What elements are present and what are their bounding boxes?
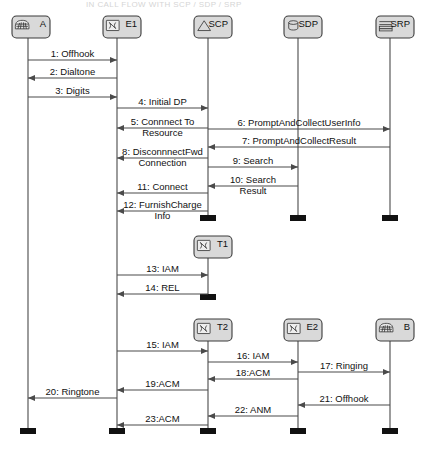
message-label: 16: IAM [237,350,270,361]
message-arrowhead [298,402,305,408]
switch-icon-wrap [197,240,210,250]
lifeline-header-t2[interactable]: T2 [194,319,232,341]
message-17[interactable]: 17: Ringing [298,360,390,375]
message-label: 14: REL [145,282,179,293]
message-arrowhead [28,395,35,401]
lifeline-header-scp[interactable]: SCP [194,16,232,38]
message-arrowhead [110,94,117,100]
message-10[interactable]: 10: SearchResult [208,174,298,196]
message-arrowhead [117,387,124,393]
message-label: 20: Ringtone [46,386,100,397]
message-label: 7: PromptAndCollectResult [242,135,356,146]
message-arrowhead [117,291,124,297]
lifeline-header-b[interactable]: B [376,319,414,341]
message-1[interactable]: 1: Offhook [28,48,117,63]
message-12[interactable]: 12: FurnishChargeInfo [117,199,208,221]
message-label: 1: Offhook [51,48,95,59]
diagram-title: IN CALL FLOW WITH SCP / SDP / SRP [86,0,242,9]
switch-icon-wrap [197,323,210,333]
message-label: 19:ACM [145,378,179,389]
message-arrowhead [208,183,215,189]
message-11[interactable]: 11: Connect [117,181,208,196]
message-21[interactable]: 21: Offhook [298,393,390,408]
lifeline-t2 [200,341,216,434]
message-label: Result [240,185,267,196]
message-22[interactable]: 22: ANM [208,404,298,419]
telephone-icon-wrap [15,20,29,29]
message-8[interactable]: 8: DisconnnectFwdConnection [117,146,208,168]
message-arrowhead [208,413,215,419]
message-19[interactable]: 19:ACM [117,378,208,393]
message-15[interactable]: 15: IAM [117,339,208,354]
lifeline-label-sdp: SDP [298,18,318,29]
telephone-icon [379,323,393,332]
lifeline-b [382,341,398,434]
sequence-diagram-canvas: IN CALL FLOW WITH SCP / SDP / SRP 1: Off… [0,0,431,455]
telephone-icon-wrap [379,323,393,332]
lifeline-label-srp: SRP [390,18,410,29]
lifeline-header-a[interactable]: A [12,16,50,38]
message-arrowhead [291,164,298,170]
message-label: 5: Connnect To [131,116,195,127]
message-arrowhead [28,75,35,81]
message-label: Resource [142,127,183,138]
lifeline-header-sdp[interactable]: SDP [284,16,322,38]
message-6[interactable]: 6: PromptAndCollectUserInfo [208,117,390,132]
switch-icon-wrap [106,20,119,30]
message-label: 8: DisconnnectFwd [122,146,203,157]
message-label: 22: ANM [235,404,272,415]
lifeline-terminator-t1 [200,294,216,300]
message-7[interactable]: 7: PromptAndCollectResult [208,135,390,150]
message-label: 6: PromptAndCollectUserInfo [237,117,360,128]
message-13[interactable]: 13: IAM [117,263,208,278]
message-arrowhead [201,272,208,278]
lifeline-terminator-e2 [290,428,306,434]
headers-layer: AE1SCPSDPSRPT1T2E2B [12,16,414,341]
lifeline-header-t1[interactable]: T1 [194,236,232,258]
lifeline-terminator-srp [382,215,398,221]
message-16[interactable]: 16: IAM [208,350,298,365]
lifeline-e2 [290,341,306,434]
message-arrowhead [208,144,215,150]
switch-icon [197,240,210,250]
message-label: 18:ACM [236,367,270,378]
message-14[interactable]: 14: REL [117,282,208,297]
message-5[interactable]: 5: Connnect ToResource [117,116,208,138]
message-9[interactable]: 9: Search [208,155,298,170]
lifeline-label-e2: E2 [306,321,318,332]
message-label: 3: Digits [55,85,90,96]
message-arrowhead [117,190,124,196]
message-arrowhead [208,376,215,382]
message-arrowhead [117,125,124,131]
message-2[interactable]: 2: Dialtone [28,66,117,81]
message-label: 12: FurnishCharge [123,199,202,210]
message-4[interactable]: 4: Initial DP [117,96,208,111]
message-arrowhead [383,126,390,132]
lifeline-label-t1: T1 [217,238,228,249]
message-label: 11: Connect [137,181,188,192]
message-23[interactable]: 23:ACM [117,413,208,428]
lifeline-header-e2[interactable]: E2 [284,319,322,341]
telephone-icon [15,20,29,29]
message-arrowhead [110,57,117,63]
lifeline-label-scp: SCP [208,18,228,29]
message-label: 13: IAM [146,263,179,274]
message-label: 2: Dialtone [50,66,95,77]
switch-icon [197,323,210,333]
message-3[interactable]: 3: Digits [28,85,117,100]
message-arrowhead [383,369,390,375]
lifeline-header-srp[interactable]: SRP [376,16,414,38]
switch-icon [287,323,300,333]
message-label: 23:ACM [145,413,179,424]
message-arrowhead [201,105,208,111]
message-20[interactable]: 20: Ringtone [28,386,117,401]
message-18[interactable]: 18:ACM [208,367,298,382]
lifeline-header-e1[interactable]: E1 [103,16,141,38]
sequence-diagram-svg: IN CALL FLOW WITH SCP / SDP / SRP 1: Off… [0,0,431,455]
lifeline-terminator-a [20,428,36,434]
message-arrowhead [201,348,208,354]
switch-icon-wrap [287,323,300,333]
message-label: 21: Offhook [320,393,369,404]
switch-icon [106,20,119,30]
lifeline-terminator-e1 [109,428,125,434]
